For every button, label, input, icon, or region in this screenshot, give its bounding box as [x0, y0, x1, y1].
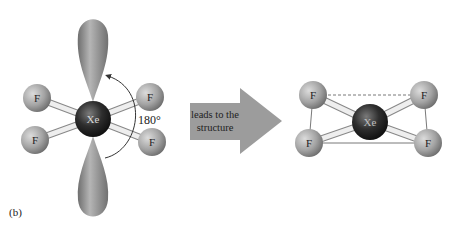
- angle-label: 180°: [138, 113, 161, 127]
- svg-text:F: F: [149, 136, 155, 148]
- svg-text:F: F: [421, 89, 427, 101]
- svg-text:Xe: Xe: [87, 113, 100, 125]
- fluorine-atom: F: [295, 129, 323, 157]
- fluorine-atom: F: [136, 83, 164, 111]
- panel-label: (b): [9, 206, 22, 219]
- svg-text:F: F: [425, 137, 431, 149]
- svg-text:F: F: [34, 92, 40, 104]
- right-molecule: F F F F Xe: [295, 81, 442, 157]
- fluorine-atom: F: [299, 81, 327, 109]
- fluorine-atom: F: [23, 84, 51, 112]
- svg-text:F: F: [306, 137, 312, 149]
- upper-lone-pair-lobe: [78, 19, 109, 102]
- svg-text:F: F: [147, 91, 153, 103]
- xenon-atom: Xe: [352, 104, 388, 140]
- xef4-diagram: 180° F F F F Xe leads to the structure: [0, 0, 457, 229]
- fluorine-atom: F: [21, 126, 49, 154]
- fluorine-atom: F: [138, 128, 166, 156]
- fluorine-atom: F: [414, 129, 442, 157]
- fluorine-atom: F: [410, 81, 438, 109]
- svg-text:F: F: [310, 89, 316, 101]
- arrow-text-line2: structure: [197, 122, 234, 133]
- svg-text:Xe: Xe: [364, 116, 377, 128]
- left-molecule: 180° F F F F Xe: [21, 19, 166, 216]
- arrow-text-line1: leads to the: [191, 109, 239, 120]
- leads-to-arrow: leads to the structure: [190, 88, 282, 154]
- svg-text:F: F: [32, 134, 38, 146]
- lower-lone-pair-lobe: [78, 136, 109, 217]
- xenon-atom: Xe: [75, 101, 111, 137]
